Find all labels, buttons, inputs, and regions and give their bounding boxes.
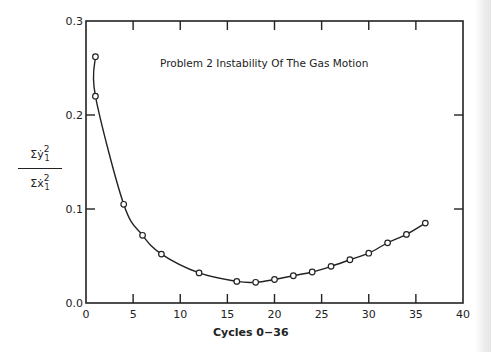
x-tick-label: 10 xyxy=(173,308,187,321)
data-point-marker xyxy=(196,270,202,276)
data-point-marker xyxy=(347,257,353,263)
data-point-marker xyxy=(234,279,240,285)
data-point-marker xyxy=(253,280,259,286)
data-point-marker xyxy=(272,277,278,283)
y-label-denominator: Σẋ21 xyxy=(18,170,62,196)
x-tick-label: 0 xyxy=(83,308,90,321)
y-tick-label: 0.1 xyxy=(66,203,84,216)
scan-shadow-edge xyxy=(475,0,491,352)
data-point-marker xyxy=(291,273,297,279)
data-series xyxy=(93,54,428,285)
data-point-marker xyxy=(140,233,146,239)
x-tick-label: 35 xyxy=(409,308,423,321)
fraction-bar xyxy=(18,168,62,169)
data-point-marker xyxy=(328,264,334,270)
x-tick-label: 40 xyxy=(456,308,470,321)
data-point-marker xyxy=(93,54,99,60)
x-tick-label: 15 xyxy=(220,308,234,321)
chart-canvas: 05101520253035400.00.10.20.3 Problem 2 I… xyxy=(0,0,491,352)
chart-title: Problem 2 Instability Of The Gas Motion xyxy=(160,57,368,69)
data-point-marker xyxy=(423,220,429,226)
y-axis-label: Σẏ21 Σẋ21 xyxy=(18,141,62,196)
x-tick-label: 20 xyxy=(268,308,282,321)
data-point-marker xyxy=(159,251,165,257)
data-point-marker xyxy=(385,240,391,246)
data-point-marker xyxy=(121,202,127,208)
x-tick-label: 5 xyxy=(130,308,137,321)
x-axis-label: Cycles 0−36 xyxy=(213,326,289,339)
y-tick-label: 0.0 xyxy=(66,297,84,310)
data-point-marker xyxy=(366,250,372,256)
y-label-numerator: Σẏ21 xyxy=(18,141,62,167)
data-point-marker xyxy=(93,93,99,99)
x-tick-label: 30 xyxy=(362,308,376,321)
y-tick-label: 0.2 xyxy=(66,109,84,122)
data-point-marker xyxy=(404,232,410,238)
data-point-marker xyxy=(309,269,315,275)
series-line xyxy=(93,57,425,283)
y-tick-label: 0.3 xyxy=(66,15,84,28)
x-tick-label: 25 xyxy=(315,308,329,321)
